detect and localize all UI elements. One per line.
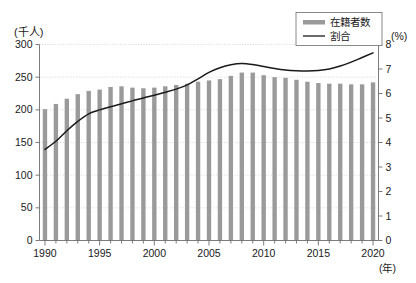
chart-legend: 在籍者数 割合: [296, 13, 382, 46]
legend-label-ratio: 割合: [330, 30, 351, 42]
bar: [251, 73, 255, 241]
bar: [283, 78, 287, 241]
bar: [294, 80, 298, 241]
y-axis-right-unit-label: (%): [391, 30, 407, 42]
bar: [305, 82, 309, 241]
bar: [338, 84, 342, 241]
bar: [272, 77, 276, 240]
bar: [218, 79, 222, 240]
bar: [185, 84, 189, 241]
x-axis-tick-label: 2015: [307, 247, 331, 259]
x-axis-tick-label: 2010: [252, 247, 276, 259]
bar: [54, 104, 58, 241]
y-axis-left-tick-label: 200: [15, 103, 33, 115]
y-axis-right-tick-label: 6: [386, 87, 392, 99]
y-axis-left-tick-label: 50: [21, 201, 33, 213]
y-axis-left-tick-label: 0: [27, 234, 33, 246]
bar: [360, 84, 364, 240]
bar: [152, 88, 156, 241]
y-axis-left-unit-label: (千人): [14, 26, 43, 38]
x-axis-tick-label: 1990: [33, 247, 57, 259]
y-axis-left-tick-label: 150: [15, 136, 33, 148]
legend-swatch-bar-icon: [303, 20, 325, 25]
bar: [97, 90, 101, 241]
bar: [141, 88, 145, 240]
legend-label-enrolled: 在籍者数: [330, 16, 371, 28]
bar: [163, 86, 167, 240]
bar: [349, 84, 353, 240]
bar: [316, 83, 320, 240]
bar: [229, 76, 233, 241]
bar: [327, 84, 331, 241]
bar: [76, 94, 80, 240]
y-axis-left-tick-label: 100: [15, 169, 33, 181]
chart-container: 050100150200250300 012345678 19901995200…: [0, 0, 416, 283]
x-axis-tick-label: 2020: [361, 247, 385, 259]
y-axis-right-tick-label: 3: [386, 161, 392, 173]
bar: [261, 75, 265, 240]
y-axis-left-tick-label: 250: [15, 71, 33, 83]
bar: [65, 99, 69, 241]
bar: [207, 80, 211, 240]
y-axis-right-tick-label: 5: [386, 112, 392, 124]
bar: [119, 86, 123, 240]
x-axis-tick-label: 2005: [197, 247, 221, 259]
bar: [174, 85, 178, 240]
x-axis-unit-label: (年): [379, 262, 396, 274]
y-axis-right-tick-label: 1: [386, 210, 392, 222]
y-axis-right-tick-labels: 012345678: [386, 38, 392, 246]
bar: [43, 109, 47, 240]
bar: [130, 88, 134, 241]
y-axis-right-tick-label: 4: [386, 136, 392, 148]
combo-chart: 050100150200250300 012345678 19901995200…: [0, 0, 416, 283]
x-axis-tick-label: 2000: [143, 247, 167, 259]
x-axis-tick-label: 1995: [88, 247, 112, 259]
bar: [371, 82, 375, 240]
y-axis-right-tick-label: 0: [386, 234, 392, 246]
bar: [108, 87, 112, 241]
bar: [240, 73, 244, 241]
y-axis-right-tick-label: 7: [386, 63, 392, 75]
bar: [196, 82, 200, 241]
y-axis-left-tick-label: 300: [15, 38, 33, 50]
y-axis-right-tick-label: 2: [386, 185, 392, 197]
